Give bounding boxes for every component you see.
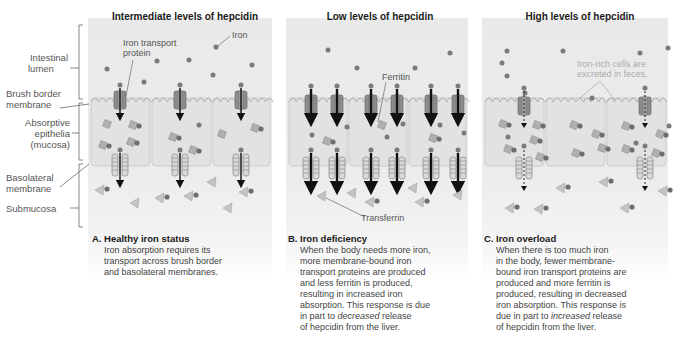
label-intestinal-lumen: Intestinal lumen [10,52,68,74]
caption-line: more membrane-bound iron [300,256,412,266]
label-line: Basolateral [6,172,54,183]
caption-c: C. Iron overload When there is too much … [484,233,679,333]
caption-line: release [590,311,622,321]
caption-line: absorption. This response is due [300,300,430,310]
label-line: (mucosa) [8,139,70,150]
annotation-line: Iron-rich cells are [577,59,648,69]
caption-b-body: When the body needs more iron, more memb… [288,245,473,333]
caption-a-letter: A. [92,233,102,244]
caption-emphasis: decreased [338,311,380,321]
caption-line: in part to [300,311,335,321]
caption-a: A. Healthy iron status Iron absorption r… [92,233,272,278]
label-line: Absorptive [8,117,70,128]
panel-a-cells [91,45,273,214]
annotation-line: excreted in feces. [577,69,648,79]
panel-b-cells [289,48,469,218]
caption-line: When there is too much iron [496,245,609,255]
caption-c-letter: C. [484,233,494,244]
caption-a-heading: Healthy iron status [104,233,190,244]
caption-b-letter: B. [288,233,298,244]
caption-line: transport across brush border [104,256,222,266]
annotation-iron: Iron [232,30,248,40]
caption-line: produced and more ferritin is [496,278,611,288]
annotation-line: Iron transport [123,38,177,48]
label-basolateral-membrane: Basolateral membrane [6,172,54,194]
annotation-iron-rich-cells: Iron-rich cells are excreted in feces. [577,59,648,79]
caption-line: and less ferritin is produced, [300,278,413,288]
label-line: lumen [10,63,68,74]
caption-b: B. Iron deficiency When the body needs m… [288,233,473,333]
label-absorptive-epithelia: Absorptive epithelia (mucosa) [8,117,70,150]
caption-line: due in part to [496,311,549,321]
caption-line: iron absorption. This response is [496,300,626,310]
caption-a-body: Iron absorption requires its transport a… [92,245,272,278]
caption-line: of hepcidin from the liver. [300,322,400,332]
caption-c-heading: Iron overload [496,233,556,244]
caption-line: of hepcidin from the liver. [496,322,596,332]
caption-line: in the body, fewer membrane- [496,256,615,266]
caption-line: When the body needs more iron, [300,245,431,255]
label-line: epithelia [8,128,70,139]
caption-line: bound iron transport proteins are [496,267,627,277]
caption-b-heading: Iron deficiency [300,233,367,244]
caption-line: produced, resulting in decreased [496,289,627,299]
caption-emphasis: increased [551,311,590,321]
label-line: Intestinal [10,52,68,63]
annotation-line: protein [123,48,177,58]
caption-line: Iron absorption requires its [104,245,211,255]
caption-line: resulting in increased iron [300,289,403,299]
caption-c-body: When there is too much iron in the body,… [484,245,679,333]
label-line: Brush border [6,88,61,99]
caption-line: release [380,311,412,321]
caption-line: transport proteins are produced [300,267,426,277]
annotation-ferritin: Ferritin [382,72,410,82]
label-submucosa: Submucosa [6,203,56,214]
annotation-iron-transport-protein: Iron transport protein [123,38,177,58]
label-line: membrane [6,99,61,110]
label-line: membrane [6,183,54,194]
caption-line: and basolateral membranes. [104,267,218,277]
annotation-transferrin: Transferrin [361,213,404,223]
label-brush-border-membrane: Brush border membrane [6,88,61,110]
